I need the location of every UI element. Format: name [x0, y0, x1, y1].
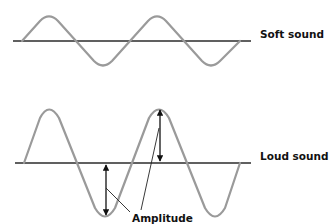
loud-sound-label: Loud sound — [260, 150, 328, 162]
soft-sound-label: Soft sound — [260, 28, 324, 40]
amplitude-leader-line-left — [106, 188, 130, 212]
loud-sound-wave-group: Loud sound — [15, 110, 328, 217]
sound-wave-diagram: Soft sound Loud sound Amplitude — [0, 0, 333, 224]
soft-sound-wave-group: Soft sound — [13, 17, 324, 66]
amplitude-label: Amplitude — [132, 212, 193, 224]
amplitude-leader-line-right — [141, 128, 159, 210]
amplitude-annotation: Amplitude — [106, 110, 193, 224]
